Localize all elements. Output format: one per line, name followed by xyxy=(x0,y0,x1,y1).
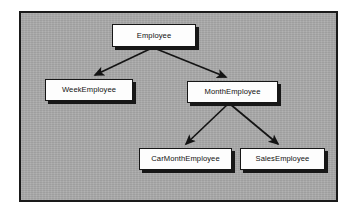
class-box-month-employee[interactable]: MonthEmployee xyxy=(187,81,278,103)
class-box-week-employee[interactable]: WeekEmployee xyxy=(45,79,133,101)
diagram-screenshot: Employee WeekEmployee MonthEmployee CarM… xyxy=(0,0,356,214)
class-box-label: CarMonthEmployee xyxy=(151,155,219,163)
class-box-label: Employee xyxy=(137,32,171,40)
class-box-label: MonthEmployee xyxy=(205,88,261,96)
class-box-label: WeekEmployee xyxy=(62,86,116,94)
class-box-employee[interactable]: Employee xyxy=(112,24,196,47)
class-box-car-month-employee[interactable]: CarMonthEmployee xyxy=(139,148,232,170)
class-box-sales-employee[interactable]: SalesEmployee xyxy=(240,148,325,170)
class-box-label: SalesEmployee xyxy=(256,155,310,163)
